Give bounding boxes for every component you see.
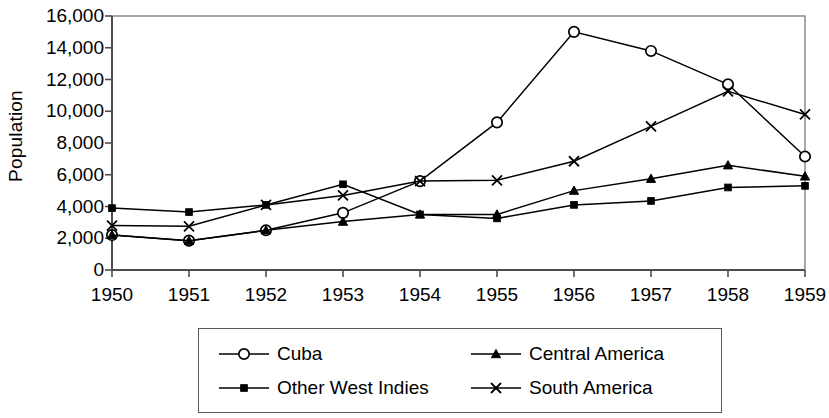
marker-open-circle [239, 349, 249, 359]
legend-item-south-america[interactable]: South America [469, 375, 653, 401]
marker-filled-square [109, 205, 116, 212]
legend-item-other-west-indies[interactable]: Other West Indies [217, 375, 429, 401]
marker-filled-square [648, 198, 655, 205]
legend-label: Other West Indies [271, 377, 429, 399]
legend-marker-cross-x [469, 377, 523, 399]
series-central-america [107, 161, 809, 245]
marker-open-circle [646, 46, 656, 56]
legend-marker-filled-square [217, 377, 271, 399]
marker-filled-square [802, 183, 809, 190]
legend-marker-open-circle [217, 343, 271, 365]
population-line-chart: Population 16,00014,00012,00010,0008,000… [0, 0, 829, 418]
marker-filled-triangle [723, 161, 732, 169]
series-line [112, 91, 805, 226]
legend-marker-filled-triangle [469, 343, 523, 365]
marker-filled-square [241, 385, 248, 392]
series-other-west-indies [109, 181, 809, 222]
legend-label: Cuba [271, 343, 322, 365]
marker-filled-square [340, 181, 347, 188]
legend-item-central-america[interactable]: Central America [469, 341, 664, 367]
marker-cross-x [569, 156, 579, 166]
series-line [112, 184, 805, 218]
legend-label: Central America [523, 343, 664, 365]
legend-label: South America [523, 377, 653, 399]
chart-legend: CubaCentral AmericaOther West IndiesSout… [198, 328, 722, 413]
series-cuba [107, 27, 810, 246]
legend-item-cuba[interactable]: Cuba [217, 341, 322, 367]
marker-cross-x [646, 121, 656, 131]
marker-filled-square [571, 202, 578, 209]
series-line [112, 165, 805, 240]
marker-open-circle [492, 117, 502, 127]
marker-filled-square [725, 184, 732, 191]
marker-open-circle [800, 151, 810, 161]
marker-filled-square [186, 209, 193, 216]
marker-open-circle [569, 27, 579, 37]
plot-border [112, 16, 805, 270]
